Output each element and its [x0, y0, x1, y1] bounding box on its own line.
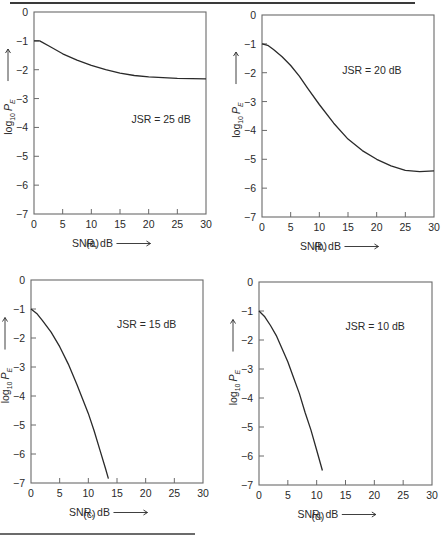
x-tick-label: 20 — [143, 218, 155, 230]
y-tick-label: −1 — [241, 305, 253, 317]
y-tick-label: −7 — [13, 477, 25, 489]
panel-label: (b) — [314, 240, 327, 252]
panel-a: 0510152025300−1−2−3−4−5−6−7JSR = 25 dBSN… — [2, 6, 212, 249]
y-tick-label: −4 — [241, 392, 253, 404]
x-tick-label: 30 — [426, 489, 438, 501]
jsr-annotation: JSR = 25 dB — [131, 113, 190, 125]
x-tick-label: 5 — [288, 221, 294, 233]
pe-curve — [34, 41, 206, 79]
y-tick-label: −2 — [244, 67, 256, 79]
x-tick-label: 15 — [340, 489, 352, 501]
jsr-annotation: JSR = 20 dB — [342, 64, 401, 76]
panel-label: (d) — [311, 510, 324, 522]
panel-d: 0510152025300−1−2−3−4−5−6−7JSR = 10 dBSN… — [227, 276, 438, 522]
x-tick-label: 0 — [28, 487, 34, 499]
y-tick-label: −2 — [16, 64, 28, 76]
figure-canvas: 0510152025300−1−2−3−4−5−6−7JSR = 25 dBSN… — [0, 0, 441, 537]
x-tick-label: 0 — [259, 221, 265, 233]
panel-b: 0510152025300−1−2−3−4−5−6−7JSR = 20 dBSN… — [230, 9, 440, 252]
x-tick-label: 0 — [31, 218, 37, 230]
x-tick-label: 15 — [111, 487, 123, 499]
y-tick-label: −2 — [13, 332, 25, 344]
y-tick-label: −7 — [241, 479, 253, 491]
plot-frame — [259, 282, 432, 485]
x-tick-label: 25 — [399, 221, 411, 233]
y-tick-label: −4 — [16, 121, 28, 133]
panel-c: 0510152025300−1−2−3−4−5−6−7JSR = 15 dBSN… — [0, 274, 209, 520]
y-tick-label: −6 — [241, 450, 253, 462]
y-tick-label: −5 — [241, 421, 253, 433]
x-tick-label: 25 — [168, 487, 180, 499]
y-tick-label: −4 — [244, 124, 256, 136]
x-tick-label: 30 — [428, 221, 440, 233]
panel-label: (a) — [86, 237, 99, 249]
y-tick-label: −3 — [244, 96, 256, 108]
y-tick-label: −6 — [16, 179, 28, 191]
x-tick-label: 10 — [82, 487, 94, 499]
pe-curve — [31, 309, 108, 479]
y-axis-label: log10PE — [0, 367, 13, 403]
pe-curve — [259, 311, 322, 471]
y-axis-label: log10PE — [230, 102, 244, 138]
y-tick-label: −6 — [13, 448, 25, 460]
y-tick-label: −5 — [244, 153, 256, 165]
y-tick-label: −1 — [13, 303, 25, 315]
y-axis-label: log10PE — [227, 369, 241, 405]
x-tick-label: 30 — [200, 218, 212, 230]
jsr-annotation: JSR = 15 dB — [117, 318, 176, 330]
y-tick-label: −3 — [241, 363, 253, 375]
y-tick-label: −3 — [13, 361, 25, 373]
plot-frame — [262, 15, 434, 217]
x-tick-label: 25 — [171, 218, 183, 230]
y-tick-label: −4 — [13, 390, 25, 402]
x-tick-label: 20 — [371, 221, 383, 233]
plot-frame — [31, 280, 203, 483]
x-tick-label: 20 — [140, 487, 152, 499]
x-tick-label: 30 — [197, 487, 209, 499]
y-tick-label: −7 — [16, 208, 28, 220]
y-tick-label: 0 — [247, 276, 253, 288]
x-tick-label: 5 — [57, 487, 63, 499]
y-tick-label: −1 — [16, 35, 28, 47]
y-tick-label: −5 — [13, 419, 25, 431]
x-tick-label: 10 — [313, 221, 325, 233]
y-tick-label: −3 — [16, 93, 28, 105]
y-tick-label: −2 — [241, 334, 253, 346]
y-tick-label: −1 — [244, 38, 256, 50]
x-tick-label: 0 — [256, 489, 262, 501]
x-tick-label: 20 — [368, 489, 380, 501]
jsr-annotation: JSR = 10 dB — [346, 320, 405, 332]
y-tick-label: −5 — [16, 150, 28, 162]
y-tick-label: 0 — [22, 6, 28, 18]
y-axis-label: log10PE — [2, 99, 16, 135]
x-tick-label: 10 — [311, 489, 323, 501]
x-tick-label: 5 — [60, 218, 66, 230]
y-tick-label: 0 — [19, 274, 25, 286]
x-tick-label: 25 — [397, 489, 409, 501]
y-tick-label: −7 — [244, 211, 256, 223]
x-tick-label: 15 — [342, 221, 354, 233]
x-tick-label: 10 — [85, 218, 97, 230]
y-tick-label: −6 — [244, 182, 256, 194]
x-tick-label: 15 — [114, 218, 126, 230]
y-tick-label: 0 — [250, 9, 256, 21]
panel-label: (c) — [83, 508, 95, 520]
x-tick-label: 5 — [285, 489, 291, 501]
